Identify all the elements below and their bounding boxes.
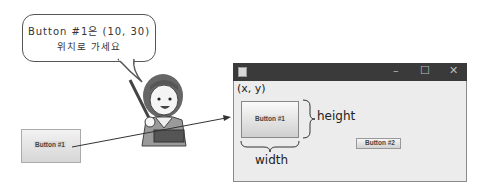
button-2-label: Button #2 (365, 139, 395, 146)
width-label: width (255, 153, 288, 167)
dimension-braces (0, 0, 481, 194)
height-label: height (317, 109, 355, 123)
